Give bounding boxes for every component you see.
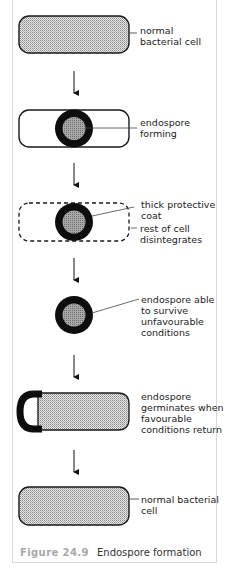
figure-number: Figure 24.9: [20, 547, 89, 558]
free-endospore: [55, 296, 139, 334]
label-line: germinates when: [141, 402, 224, 413]
label-line: normal: [140, 25, 201, 36]
label-line: forming: [140, 128, 190, 139]
germinating-cell: [20, 393, 129, 430]
label-line: endospore able: [141, 294, 214, 305]
label-rest-of-cell-disintegrates: rest of cell disintegrates: [140, 223, 202, 245]
label-line: conditions: [141, 327, 214, 338]
label-normal-bacterial-cell-final: normal bacterial cell: [141, 494, 219, 516]
normal-bacterial-cell: [19, 16, 137, 53]
endospore-forming-cell: [19, 110, 137, 148]
label-line: cell: [141, 505, 219, 516]
label-line: endospore: [140, 117, 190, 128]
label-line: bacterial cell: [140, 36, 201, 47]
normal-bacterial-cell-final: [19, 487, 139, 525]
label-endospore-germinates: endospore germinates when favourable con…: [141, 391, 224, 435]
label-normal-bacterial-cell: normal bacterial cell: [140, 25, 201, 47]
label-line: to survive: [141, 305, 214, 316]
label-line: normal bacterial: [141, 494, 219, 505]
label-endospore-survive: endospore able to survive unfavourable c…: [141, 294, 214, 338]
label-line: disintegrates: [140, 234, 202, 245]
label-thick-protective-coat: thick protective coat: [141, 199, 215, 221]
label-line: rest of cell: [140, 223, 202, 234]
figure-title: Endospore formation: [97, 547, 202, 558]
label-line: unfavourable: [141, 316, 214, 327]
disintegrating-cell: [19, 203, 137, 241]
figure-caption: Figure 24.9 Endospore formation: [20, 547, 202, 558]
label-endospore-forming: endospore forming: [140, 117, 190, 139]
label-line: coat: [141, 210, 215, 221]
label-line: favourable: [141, 413, 224, 424]
label-line: thick protective: [141, 199, 215, 210]
label-line: conditions return: [141, 424, 224, 435]
endospore-diagram: [0, 0, 232, 571]
label-line: endospore: [141, 391, 224, 402]
